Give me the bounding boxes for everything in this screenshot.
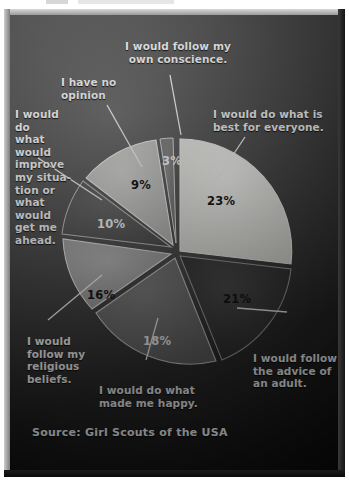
caption-fragment-right (78, 0, 174, 4)
leader-own-conscience (170, 75, 181, 135)
chart-canvas: 23% 21% 18% 16% 10% 9% 3% (10, 15, 338, 470)
slice-value-16: 16% (87, 288, 115, 302)
slice-value-9: 9% (131, 178, 151, 192)
source-note: Source: Girl Scouts of the USA (32, 426, 228, 439)
chart-plate: 23% 21% 18% 16% 10% 9% 3% (4, 9, 345, 477)
slice-value-3: 3% (162, 154, 182, 168)
plate-bevel-bottom (4, 470, 345, 477)
slice-value-21: 21% (223, 292, 251, 306)
pie-slice-best-for-everyone (180, 139, 292, 264)
callout-label-no-opinion: I have no opinion (61, 76, 147, 101)
slice-value-23: 23% (207, 194, 235, 208)
callout-label-religious-beliefs: I would follow my religious beliefs. (27, 335, 107, 385)
callout-label-own-conscience: I would follow my own conscience. (123, 40, 233, 65)
callout-label-advice-of-adult: I would follow the advice of an adult. (253, 352, 343, 390)
slice-value-18: 18% (143, 334, 171, 348)
cropped-caption-strip (0, 0, 349, 9)
screenshot-root: 23% 21% 18% 16% 10% 9% 3% (0, 0, 349, 481)
callout-label-improve-situation: I would do what would improve my situa- … (15, 108, 79, 247)
plate-bevel-right (338, 9, 345, 477)
caption-fragment-left (46, 0, 68, 4)
callout-label-best-for-everyone: I would do what is best for everyone. (213, 108, 343, 133)
callout-label-made-me-happy: I would do what made me happy. (99, 384, 219, 409)
slice-value-10: 10% (97, 217, 125, 231)
